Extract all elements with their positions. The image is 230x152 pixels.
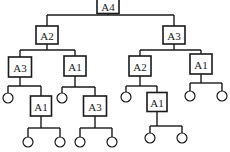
tree-leaf-circle [23,137,33,147]
tree-node-a1: A1 [31,96,52,116]
tree-leaf-circle [75,137,85,147]
leaf-circle-icon [3,93,13,103]
tree-nodes: A4A2A3A3A1A2A1A1A3A1 [3,0,227,147]
tree-leaf-circle [57,93,67,103]
tree-node-a1: A1 [190,54,212,74]
tree-leaf-circle [177,133,187,143]
tree-node-a1: A1 [147,93,167,112]
tree-diagram: A4A2A3A3A1A2A1A1A3A1 [0,0,230,152]
node-label: A4 [101,1,115,13]
leaf-circle-icon [57,93,67,103]
tree-node-a1: A1 [64,56,86,76]
leaf-circle-icon [217,91,227,101]
node-label: A3 [167,30,181,42]
tree-leaf-circle [217,91,227,101]
leaf-circle-icon [55,137,65,147]
node-label: A3 [13,62,27,74]
tree-leaf-circle [107,137,117,147]
leaf-circle-icon [23,137,33,147]
node-label: A1 [150,97,163,109]
node-label: A1 [194,59,207,71]
leaf-circle-icon [185,91,195,101]
leaf-circle-icon [145,133,155,143]
tree-node-a3: A3 [9,57,32,77]
tree-leaf-circle [185,91,195,101]
node-label: A1 [68,61,81,73]
tree-leaf-circle [121,92,131,102]
leaf-circle-icon [75,137,85,147]
tree-node-a3: A3 [84,96,107,116]
node-label: A2 [133,61,146,73]
node-label: A3 [88,101,102,113]
node-label: A2 [40,30,53,42]
tree-node-a2: A2 [129,56,151,76]
tree-leaf-circle [145,133,155,143]
tree-leaf-circle [55,137,65,147]
tree-node-a4: A4 [97,0,119,14]
node-label: A1 [34,101,47,113]
leaf-circle-icon [121,92,131,102]
leaf-circle-icon [177,133,187,143]
leaf-circle-icon [107,137,117,147]
tree-node-a3: A3 [163,26,185,44]
tree-node-a2: A2 [36,26,58,44]
tree-leaf-circle [3,93,13,103]
